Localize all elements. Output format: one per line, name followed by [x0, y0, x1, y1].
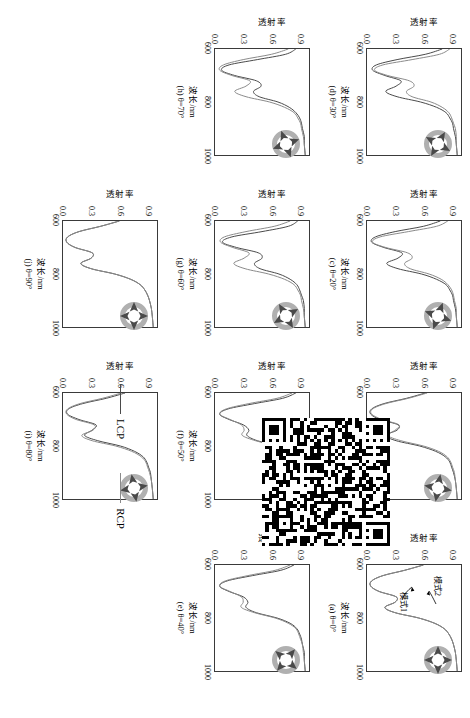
figure-legend: LCP RCP — [110, 384, 132, 614]
x-tick-label: 1000 — [51, 492, 60, 508]
unit-cell-inset-c — [416, 294, 460, 338]
unit-cell-inset-h — [264, 122, 308, 166]
legend-item-lcp: LCP — [115, 384, 127, 439]
x-tick-label: 800 — [203, 440, 212, 452]
x-axis-label-e: 波长/nm — [188, 564, 200, 672]
x-tick-label: 600 — [203, 214, 212, 226]
x-tick-label: 800 — [51, 440, 60, 452]
y-tick-label: 0.6 — [116, 206, 125, 216]
y-axis-label-c: 透射率 — [389, 187, 459, 199]
y-tick-label: 0.9 — [296, 34, 305, 44]
y-tick-label: 0.3 — [239, 206, 248, 216]
y-axis-label-f: 透射率 — [237, 359, 307, 371]
x-axis-label-f: 波长/nm — [188, 392, 200, 500]
subplot-caption-a: (a) θ=0° — [328, 554, 338, 682]
x-axis-ticks-g: 6008001000 — [198, 220, 212, 328]
y-axis-label-d: 透射率 — [389, 15, 459, 27]
y-tick-label: 0.9 — [448, 206, 457, 216]
y-tick-label: 0.6 — [268, 378, 277, 388]
subplot-caption-j: (j) θ=90° — [24, 210, 34, 338]
subplot-caption-d: (d) θ=30° — [328, 38, 338, 166]
x-tick-label: 600 — [203, 42, 212, 54]
x-axis-label-i: 波长/nm — [36, 392, 48, 500]
x-axis-label-j: 波长/nm — [36, 220, 48, 328]
subplot-caption-c: (c) θ=20° — [328, 210, 338, 338]
x-tick-label: 800 — [203, 96, 212, 108]
y-tick-label: 0.3 — [391, 378, 400, 388]
y-axis-label-b: 透射率 — [389, 359, 459, 371]
y-tick-label: 0.6 — [268, 206, 277, 216]
subplot-caption-g: (g) θ=60° — [176, 210, 186, 338]
y-tick-label: 0.9 — [296, 550, 305, 560]
x-axis-label-c: 波长/nm — [340, 220, 352, 328]
y-tick-label: 0.9 — [296, 378, 305, 388]
x-tick-label: 1000 — [355, 320, 364, 336]
x-tick-label: 1000 — [203, 664, 212, 680]
unit-cell-inset-e — [264, 638, 308, 682]
x-tick-label: 1000 — [355, 664, 364, 680]
x-tick-label: 600 — [355, 214, 364, 226]
x-tick-label: 800 — [355, 96, 364, 108]
x-tick-label: 800 — [203, 612, 212, 624]
x-tick-label: 600 — [51, 386, 60, 398]
y-tick-label: 0.9 — [144, 206, 153, 216]
legend-line-rcp — [121, 473, 122, 503]
y-tick-label: 0.6 — [268, 34, 277, 44]
legend-label-lcp: LCP — [115, 419, 127, 439]
x-axis-ticks-j: 6008001000 — [46, 220, 60, 328]
y-tick-label: 0.3 — [391, 206, 400, 216]
legend-label-rcp: RCP — [115, 508, 127, 529]
subplot-caption-e: (e) θ=40° — [176, 554, 186, 682]
y-tick-label: 0.6 — [420, 378, 429, 388]
qr-code-canvas — [262, 418, 390, 546]
x-axis-ticks-e: 6008001000 — [198, 564, 212, 672]
x-tick-label: 600 — [355, 386, 364, 398]
x-tick-label: 1000 — [203, 320, 212, 336]
legend-line-lcp — [121, 384, 122, 414]
y-tick-label: 0.9 — [296, 206, 305, 216]
x-axis-ticks-f: 6008001000 — [198, 392, 212, 500]
unit-cell-inset-a — [416, 638, 460, 682]
y-tick-label: 0.9 — [448, 550, 457, 560]
y-tick-label: 0.6 — [420, 550, 429, 560]
y-tick-label: 0.3 — [87, 206, 96, 216]
unit-cell-inset-g — [264, 294, 308, 338]
y-tick-label: 0.6 — [420, 206, 429, 216]
y-tick-label: 0.6 — [420, 34, 429, 44]
x-tick-label: 1000 — [51, 320, 60, 336]
y-axis-label-g: 透射率 — [237, 187, 307, 199]
y-axis-label-h: 透射率 — [237, 15, 307, 27]
y-tick-label: 0.9 — [144, 378, 153, 388]
x-axis-ticks-i: 6008001000 — [46, 392, 60, 500]
x-tick-label: 800 — [203, 268, 212, 280]
x-axis-label-d: 波长/nm — [340, 48, 352, 156]
x-axis-ticks-a: 6008001000 — [350, 564, 364, 672]
figure-sheet: 0.00.30.60.9透射率6008001000波长/nm(a) θ=0°模式… — [0, 0, 470, 718]
x-tick-label: 600 — [203, 386, 212, 398]
x-axis-ticks-c: 6008001000 — [350, 220, 364, 328]
y-axis-label-j: 透射率 — [85, 187, 155, 199]
x-tick-label: 1000 — [203, 148, 212, 164]
subplot-caption-f: (f) θ=50° — [176, 382, 186, 510]
annotation-mode2: 模式2 — [433, 576, 444, 596]
x-tick-label: 600 — [355, 42, 364, 54]
x-tick-label: 800 — [51, 268, 60, 280]
x-tick-label: 1000 — [203, 492, 212, 508]
subplot-grid: 0.00.30.60.9透射率6008001000波长/nm(a) θ=0°模式… — [0, 0, 470, 718]
annotation-mode1: 模式1 — [399, 592, 410, 612]
subplot-caption-i: (i) θ=80° — [24, 382, 34, 510]
unit-cell-inset-j — [112, 294, 156, 338]
legend-item-rcp: RCP — [115, 473, 127, 529]
y-tick-label: 0.3 — [239, 378, 248, 388]
subplot-j: 0.00.30.60.9透射率6008001000波长/nm(j) θ=90° — [14, 176, 164, 344]
y-tick-label: 0.3 — [239, 550, 248, 560]
x-tick-label: 600 — [51, 214, 60, 226]
y-tick-label: 0.9 — [448, 34, 457, 44]
unit-cell-inset-d — [416, 122, 460, 166]
y-tick-label: 0.3 — [239, 34, 248, 44]
subplot-d: 0.00.30.60.9透射率6008001000波长/nm(d) θ=30° — [318, 4, 468, 172]
y-tick-label: 0.3 — [391, 34, 400, 44]
y-tick-label: 0.9 — [448, 378, 457, 388]
y-tick-label: 0.3 — [87, 378, 96, 388]
subplot-g: 0.00.30.60.9透射率6008001000波长/nm(g) θ=60° — [166, 176, 316, 344]
